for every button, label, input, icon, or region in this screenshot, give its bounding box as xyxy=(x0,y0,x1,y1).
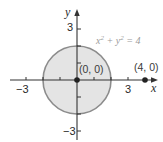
y-tick-label-3: 3 xyxy=(67,21,73,33)
point-origin xyxy=(74,77,80,83)
y-axis-arrow-icon xyxy=(74,9,79,16)
coordinate-plane-figure: x y −3 3 3 −3 x2 + y2 = 4 (0, 0) (4, 0) xyxy=(0,0,163,142)
x-tick-label-3: 3 xyxy=(125,83,131,95)
circle-equation-label: x2 + y2 = 4 xyxy=(95,34,140,46)
x-tick-label-neg3: −3 xyxy=(16,83,29,95)
y-tick-label-neg3: −3 xyxy=(63,125,76,137)
point-label-origin: (0, 0) xyxy=(79,63,104,75)
x-axis-label: x xyxy=(150,81,157,95)
point-4-0 xyxy=(142,77,148,83)
eq-rhs: = 4 xyxy=(124,35,141,46)
point-label-4-0: (4, 0) xyxy=(134,61,159,73)
y-axis-label: y xyxy=(64,5,71,19)
eq-plus: + xyxy=(104,35,116,46)
